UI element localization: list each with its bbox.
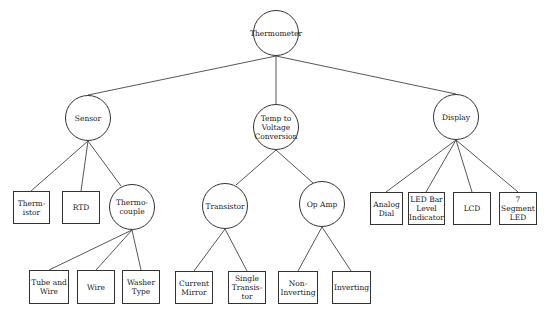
node-current-mirror: Current Mirror (175, 271, 213, 304)
node-single-transistor: Single Transis- tor (228, 271, 266, 304)
node-rtd: RTD (62, 191, 100, 224)
node-inverting: Inverting (332, 271, 371, 304)
node-tube-and-wire: Tube and Wire (29, 270, 69, 304)
node-temp-to-voltage-conversion: Temp to Voltage Conversion (253, 104, 299, 150)
node-transistor: Transistor (202, 183, 248, 229)
node-thermometer: Thermometer (253, 10, 299, 56)
node-lcd: LCD (453, 192, 491, 225)
node-thermistor: Therm- istor (13, 191, 50, 224)
node-washer-type: Washer Type (122, 270, 160, 304)
node-analog-dial: Analog Dial (370, 192, 403, 225)
node-thermocouple: Thermo- couple (109, 184, 155, 230)
node-display: Display (433, 94, 479, 140)
node-sensor: Sensor (65, 95, 111, 141)
node-non-inverting: Non- Inverting (278, 271, 318, 304)
node-op-amp: Op Amp (299, 181, 345, 227)
node-led-bar-level-indicator: LED Bar Level Indicator (408, 192, 445, 225)
node-wire: Wire (77, 270, 115, 304)
node-7-segment-led: 7 Segment LED (499, 192, 537, 225)
